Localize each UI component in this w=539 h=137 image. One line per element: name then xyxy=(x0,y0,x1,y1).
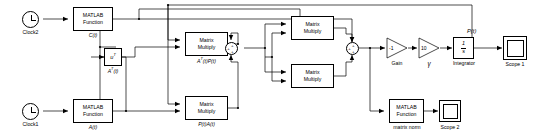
scope-2-screen xyxy=(443,104,458,119)
clock-hand-horizontal xyxy=(31,20,36,21)
gamma-gain-block[interactable]: 10 xyxy=(418,37,440,59)
matlab-function-c-line1: MATLAB xyxy=(83,12,103,19)
sum-block-1-sign-left: + xyxy=(227,47,230,51)
gain-block[interactable]: -1 xyxy=(386,37,408,59)
sum-block-2-sign-top: + xyxy=(352,44,355,48)
matlab-function-c-caption: C(t) xyxy=(78,32,108,38)
sum-block-2-sign-bottom: + xyxy=(352,50,355,54)
matrix-multiply-at-p-line1: Matrix xyxy=(199,37,213,44)
signal-label-p-of-t: P(t) xyxy=(467,28,491,34)
gamma-gain-block-value: 10 xyxy=(421,45,427,51)
integrator-block[interactable]: 1 s xyxy=(453,37,474,59)
matlab-function-a-line2: Function xyxy=(83,111,103,118)
gain-block-value: -1 xyxy=(389,45,393,51)
sum-block-2[interactable]: + + + xyxy=(346,42,359,55)
matlab-function-norm-caption: matrix norm xyxy=(385,124,429,130)
matlab-function-a-block[interactable]: MATLAB Function xyxy=(73,99,113,123)
matrix-multiply-at-p-block[interactable]: Matrix Multiply xyxy=(185,32,228,56)
transpose-block-caption: AT(t) xyxy=(99,67,127,74)
matrix-multiply-top-line1: Matrix xyxy=(305,21,319,28)
matrix-multiply-p-a-caption: P(t)A(t) xyxy=(184,121,229,127)
clock-icon-clock2[interactable] xyxy=(22,11,39,28)
integrator-fraction: 1 s xyxy=(461,41,466,54)
scope-1-caption: Scope 1 xyxy=(498,61,532,67)
sum-block-2-sign-left: + xyxy=(348,47,351,51)
sum-block-1-sign-top: + xyxy=(231,44,234,48)
sum-block-1[interactable]: + + + xyxy=(225,42,238,55)
clock-icon-clock1[interactable] xyxy=(22,103,39,120)
matlab-function-a-caption: A(t) xyxy=(78,124,108,130)
gain-block-caption: Gain xyxy=(382,60,412,66)
transpose-block[interactable]: uT xyxy=(104,48,122,66)
block-diagram-canvas: Clock2 Clock1 MATLAB Function C(t) MATLA… xyxy=(0,0,539,137)
matrix-multiply-p-a-line1: Matrix xyxy=(199,101,213,108)
scope-2-caption: Scope 2 xyxy=(433,124,467,130)
matlab-function-a-line1: MATLAB xyxy=(83,104,103,111)
matrix-multiply-top-line2: Multiply xyxy=(304,28,322,35)
matlab-function-c-line2: Function xyxy=(83,19,103,26)
integrator-caption: Integrator xyxy=(446,60,482,66)
matrix-multiply-bottom-line1: Matrix xyxy=(305,69,319,76)
matrix-multiply-p-a-block[interactable]: Matrix Multiply xyxy=(185,96,228,120)
matrix-multiply-at-p-caption: AT(t)P(t) xyxy=(182,57,231,64)
clock-hand-horizontal xyxy=(31,112,36,113)
scope-2-block[interactable] xyxy=(439,100,461,122)
matrix-multiply-at-p-line2: Multiply xyxy=(198,44,216,51)
matrix-multiply-top-block[interactable]: Matrix Multiply xyxy=(291,16,334,40)
matlab-function-norm-block[interactable]: MATLAB Function xyxy=(389,99,424,123)
matrix-multiply-bottom-line2: Multiply xyxy=(304,76,322,83)
clock1-label: Clock1 xyxy=(12,121,49,127)
integrator-denominator: s xyxy=(462,49,465,55)
transpose-block-exponent: T xyxy=(113,53,115,57)
scope-1-screen xyxy=(507,40,524,57)
matrix-multiply-bottom-block[interactable]: Matrix Multiply xyxy=(291,64,334,88)
matlab-function-c-block[interactable]: MATLAB Function xyxy=(73,7,113,31)
gamma-gain-block-caption: γ xyxy=(414,60,444,67)
matlab-function-norm-line1: MATLAB xyxy=(396,104,416,111)
clock2-label: Clock2 xyxy=(12,29,49,35)
scope-1-block[interactable] xyxy=(503,36,527,60)
sum-block-1-sign-bottom: + xyxy=(231,50,234,54)
matlab-function-norm-line2: Function xyxy=(397,111,417,118)
matrix-multiply-p-a-line2: Multiply xyxy=(198,108,216,115)
integrator-numerator: 1 xyxy=(462,41,465,47)
